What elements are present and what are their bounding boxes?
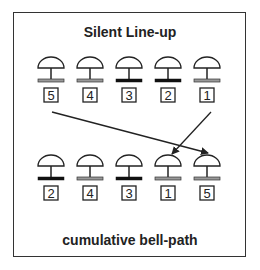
bell-top-3: 3 xyxy=(116,57,142,103)
bell-top-5: 5 xyxy=(38,57,64,103)
bell-number: 1 xyxy=(203,88,210,103)
bell-base-light xyxy=(194,177,220,180)
bell-dome-icon xyxy=(155,57,181,68)
bell-base-light xyxy=(38,79,64,82)
arrow-5 xyxy=(52,112,208,153)
bell-dome-icon xyxy=(194,155,220,166)
bell-number: 5 xyxy=(47,88,54,103)
bell-number: 5 xyxy=(203,186,210,201)
bottom-bell-row: 24315 xyxy=(38,155,220,201)
bell-dome-icon xyxy=(116,57,142,68)
bell-bottom-3: 3 xyxy=(116,155,142,201)
bell-dome-icon xyxy=(38,57,64,68)
bell-bottom-4: 4 xyxy=(77,155,103,201)
bell-bottom-2: 2 xyxy=(38,155,64,201)
bell-dome-icon xyxy=(116,155,142,166)
bell-base-dark xyxy=(116,79,142,82)
bell-base-light xyxy=(77,79,103,82)
bell-number: 4 xyxy=(86,88,93,103)
bell-base-dark xyxy=(155,79,181,82)
bell-dome-icon xyxy=(77,57,103,68)
bell-dome-icon xyxy=(38,155,64,166)
bell-dome-icon xyxy=(77,155,103,166)
bell-top-2: 2 xyxy=(155,57,181,103)
bell-dome-icon xyxy=(155,155,181,166)
bell-number: 3 xyxy=(125,186,132,201)
bell-base-light xyxy=(194,79,220,82)
bell-number: 1 xyxy=(164,186,171,201)
arrow-1 xyxy=(172,112,211,154)
bell-base-light xyxy=(77,177,103,180)
bell-diagram: 54321 24315 xyxy=(0,0,260,270)
bell-bottom-1: 1 xyxy=(155,155,181,201)
bell-base-dark xyxy=(38,177,64,180)
bell-dome-icon xyxy=(194,57,220,68)
bell-bottom-5: 5 xyxy=(194,155,220,201)
bell-number: 2 xyxy=(47,186,54,201)
top-bell-row: 54321 xyxy=(38,57,220,103)
path-arrows xyxy=(52,112,211,154)
bell-top-1: 1 xyxy=(194,57,220,103)
bell-top-4: 4 xyxy=(77,57,103,103)
bell-base-dark xyxy=(116,177,142,180)
bell-number: 4 xyxy=(86,186,93,201)
bell-number: 2 xyxy=(164,88,171,103)
bell-base-light xyxy=(155,177,181,180)
bell-number: 3 xyxy=(125,88,132,103)
